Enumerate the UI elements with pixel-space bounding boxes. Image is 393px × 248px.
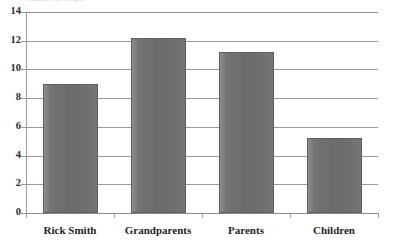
y-axis-label: 12: [0, 34, 21, 45]
gridline-10: [26, 69, 378, 70]
plot-area: [26, 12, 378, 213]
bar[interactable]: [219, 52, 274, 213]
x-axis-label-rick-smith: Rick Smith: [26, 224, 114, 236]
y-axis-label: 6: [0, 120, 21, 131]
x-tick: [378, 213, 379, 218]
x-tick: [290, 213, 291, 218]
x-tick: [114, 213, 115, 218]
gridline-12: [26, 41, 378, 42]
y-axis-label: 2: [0, 177, 21, 188]
chart-title-remnant: Number of People: [26, 0, 146, 3]
bar[interactable]: [131, 38, 186, 213]
bar[interactable]: [43, 84, 98, 213]
x-axis-label-children: Children: [290, 224, 378, 236]
y-axis-label: 14: [0, 5, 21, 16]
x-tick: [202, 213, 203, 218]
gridline-14: [26, 12, 378, 13]
x-axis-label-grandparents: Grandparents: [114, 224, 202, 236]
bar[interactable]: [307, 138, 362, 213]
y-axis-label: 8: [0, 91, 21, 102]
y-axis-label: 10: [0, 62, 21, 73]
y-axis-label: 4: [0, 149, 21, 160]
x-axis-label-parents: Parents: [202, 224, 290, 236]
bar-chart: Number of People 02468101214 Rick SmithG…: [0, 0, 393, 248]
x-tick: [26, 213, 27, 218]
y-axis-label: 0: [0, 206, 21, 217]
